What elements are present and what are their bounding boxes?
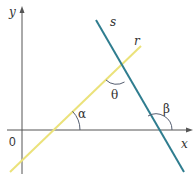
x-axis-label: x: [181, 137, 188, 151]
origin-label: 0: [9, 135, 16, 149]
x-axis-arrow-icon: [186, 128, 193, 133]
line-s: s: [96, 15, 184, 172]
angle-theta-label: θ: [111, 88, 118, 102]
y-axis-label: y: [8, 5, 16, 19]
y-axis-arrow-icon: [20, 6, 25, 13]
line-s-label: s: [110, 15, 116, 29]
angle-theta: θ: [106, 80, 125, 102]
diagram-canvas: y x 0 r s α θ β: [0, 0, 196, 180]
angle-alpha-label: α: [78, 107, 86, 121]
angle-beta-label: β: [163, 102, 170, 116]
line-r: r: [10, 34, 141, 172]
